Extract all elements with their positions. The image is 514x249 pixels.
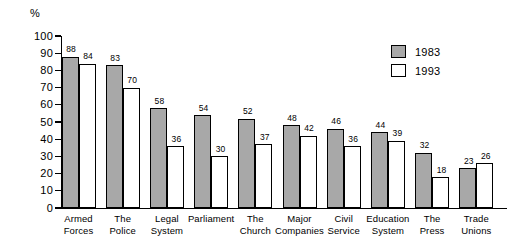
bar-1983-armed-forces[interactable]: 88 <box>62 57 79 208</box>
category-label-line: System <box>125 225 209 237</box>
y-axis-unit-label: % <box>30 7 40 19</box>
bar-1993-legal-system[interactable]: 36 <box>167 146 184 208</box>
bar-1993-the-church[interactable]: 37 <box>255 144 272 208</box>
bar-1983-the-press[interactable]: 32 <box>415 153 432 208</box>
y-tick-label: 30 <box>24 151 53 162</box>
y-tick-label: 50 <box>24 117 53 128</box>
bar-value-label: 46 <box>319 117 353 126</box>
bar-1993-the-press[interactable]: 18 <box>432 177 449 208</box>
bar-value-label: 83 <box>98 54 132 63</box>
bar-group: 5237 <box>238 36 272 208</box>
y-tick-label: 90 <box>24 48 53 59</box>
bar-group: 5836 <box>150 36 184 208</box>
y-tick-label: 10 <box>24 185 53 196</box>
y-tick-label: 80 <box>24 65 53 76</box>
bar-value-label: 48 <box>275 114 309 123</box>
y-tick-label: 20 <box>24 168 53 179</box>
y-tick-label: 60 <box>24 99 53 110</box>
bar-value-label: 39 <box>380 129 414 138</box>
bar-value-label: 52 <box>231 107 265 116</box>
bar-group: 5430 <box>194 36 228 208</box>
bar-value-label: 26 <box>469 152 503 161</box>
bar-value-label: 36 <box>336 135 370 144</box>
bar-1983-education-system[interactable]: 44 <box>371 132 388 208</box>
bar-value-label: 37 <box>248 133 282 142</box>
bar-1993-civil-service[interactable]: 36 <box>344 146 361 208</box>
bar-1983-trade-unions[interactable]: 23 <box>459 168 476 208</box>
legend-swatch-1993-icon <box>391 64 406 77</box>
bar-1983-parliament[interactable]: 54 <box>194 115 211 208</box>
bar-1983-legal-system[interactable]: 58 <box>150 108 167 208</box>
bar-1993-trade-unions[interactable]: 26 <box>476 163 493 208</box>
bar-1993-education-system[interactable]: 39 <box>388 141 405 208</box>
bar-1983-major-companies[interactable]: 48 <box>283 125 300 208</box>
bar-value-label: 54 <box>187 104 221 113</box>
bar-chart: % 1009080706050403020100 888483705836543… <box>0 0 514 249</box>
bar-1993-parliament[interactable]: 30 <box>211 156 228 208</box>
bar-value-label: 30 <box>204 145 238 154</box>
bar-group: 4842 <box>283 36 317 208</box>
bar-1993-major-companies[interactable]: 42 <box>300 136 317 208</box>
legend-label-1983: 1983 <box>415 46 440 58</box>
legend-swatch-1983-icon <box>391 45 406 58</box>
legend-label-1993: 1993 <box>415 65 440 77</box>
category-label-line: Unions <box>434 225 514 237</box>
bar-value-label: 70 <box>115 76 149 85</box>
chart-legend: 1983 1993 <box>391 42 440 80</box>
bar-1993-the-police[interactable]: 70 <box>123 88 140 208</box>
bar-value-label: 58 <box>142 97 176 106</box>
bar-value-label: 32 <box>408 141 442 150</box>
y-tick-label: 100 <box>24 31 53 42</box>
y-tick-label: 40 <box>24 134 53 145</box>
bar-group: 8370 <box>106 36 140 208</box>
bar-group: 4636 <box>327 36 361 208</box>
bar-group: 8884 <box>62 36 96 208</box>
bar-1993-armed-forces[interactable]: 84 <box>79 64 96 208</box>
y-tick-label: 70 <box>24 82 53 93</box>
bar-1983-the-police[interactable]: 83 <box>106 65 123 208</box>
bar-value-label: 36 <box>159 135 193 144</box>
bar-group: 2326 <box>459 36 493 208</box>
bar-value-label: 18 <box>425 166 459 175</box>
category-label-line: Trade <box>434 213 514 225</box>
y-tick-label: 0 <box>24 203 53 214</box>
legend-item-1983[interactable]: 1983 <box>391 42 440 61</box>
legend-item-1993[interactable]: 1993 <box>391 61 440 80</box>
category-label: TradeUnions <box>434 213 514 236</box>
